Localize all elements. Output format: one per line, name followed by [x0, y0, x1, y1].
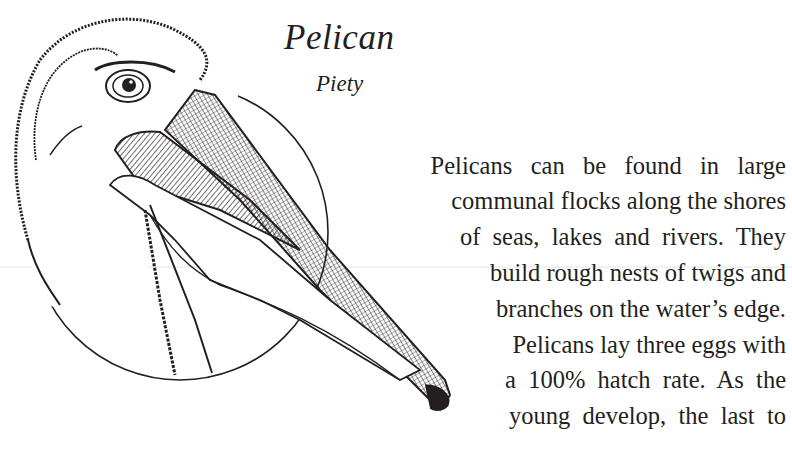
body-line: branches on the water’s edge. [496, 294, 786, 324]
body-line: of seas, lakes and rivers. They [460, 222, 786, 252]
body-line: Pelicans lay three eggs with [512, 330, 786, 360]
body-line: Pelicans can be found in large [431, 151, 786, 181]
body-line: a 100% hatch rate. As the [505, 365, 786, 395]
pelican-illustration-icon [0, 0, 470, 458]
page-title: Pelican [284, 18, 394, 58]
body-line: build rough nests of twigs and [490, 258, 786, 288]
page-subtitle: Piety [316, 70, 363, 98]
body-line: communal flocks along the shores [451, 186, 786, 216]
document-page: Pelican Piety Pelicans can be found in l… [0, 0, 792, 458]
body-line: young develop, the last to [509, 401, 786, 431]
